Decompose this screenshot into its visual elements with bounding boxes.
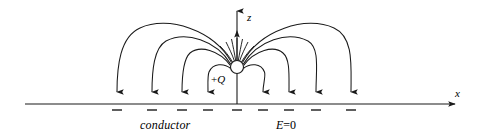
- field-line-figure: z x +Q conductor E=0: [0, 0, 484, 139]
- conductor-label: conductor: [140, 119, 190, 131]
- charge-label: +Q: [211, 74, 225, 85]
- field-line-right-4: [242, 23, 351, 92]
- figure-canvas: [0, 0, 484, 139]
- point-charge-circle: [231, 61, 244, 74]
- field-line-right-2: [243, 49, 289, 92]
- x-axis-label: x: [455, 88, 460, 99]
- field-lines-right: [242, 23, 351, 92]
- field-line-left-2: [182, 49, 231, 92]
- charge-symbol: Q: [217, 73, 225, 85]
- field-line-right-1: [243, 65, 265, 92]
- field-value: =0: [283, 118, 296, 132]
- field-zero-label: E=0: [276, 119, 296, 131]
- z-axis-label: z: [247, 12, 251, 23]
